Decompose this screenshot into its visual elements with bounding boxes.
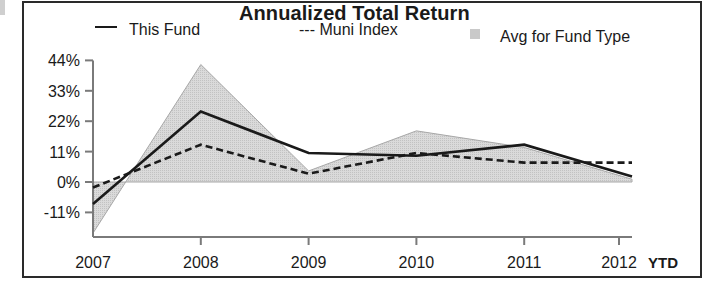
ytd-label: YTD — [648, 254, 678, 271]
y-tick-label: 22% — [48, 113, 80, 130]
avg-fund-type-area — [93, 65, 632, 234]
x-tick-label: 2010 — [399, 254, 435, 271]
y-tick-label: 33% — [48, 83, 80, 100]
x-tick-label: 2007 — [75, 254, 111, 271]
x-tick-label: 2009 — [291, 254, 327, 271]
y-tick-label: -11% — [44, 204, 80, 221]
x-axis-labels: 200720082009201020112012YTD — [75, 254, 678, 271]
x-tick-label: 2011 — [507, 254, 542, 271]
avg-area-path — [93, 65, 632, 234]
x-tick-label: 2012 — [601, 254, 637, 271]
y-tick-label: 11% — [49, 144, 80, 161]
x-tick-label: 2008 — [183, 254, 219, 271]
y-tick-label: 44% — [48, 52, 80, 69]
y-tick-label: 0% — [57, 174, 80, 191]
y-axis-labels: 44%33%22%11%0%-11% — [44, 52, 80, 221]
